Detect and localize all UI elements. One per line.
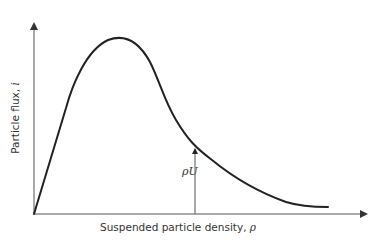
y-axis-label-text: Particle flux, [9, 89, 21, 154]
rho-u-label: ρU [182, 165, 198, 178]
flux-density-diagram [0, 0, 386, 241]
x-axis-label: Suspended particle density, ρ [100, 221, 256, 233]
rho-u-label-text: ρU [182, 165, 198, 178]
y-axis-label: Particle flux, i [9, 82, 21, 154]
flux-curve [34, 38, 328, 214]
x-axis-label-text: Suspended particle density, [100, 221, 246, 233]
y-axis-label-symbol: i [9, 82, 21, 85]
x-axis-label-symbol: ρ [250, 221, 256, 233]
